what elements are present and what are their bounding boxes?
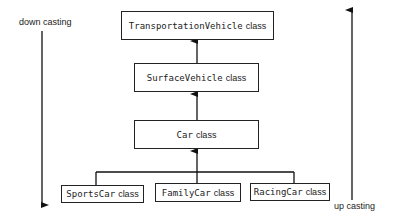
node-racing-car: RacingCarclass (250, 183, 330, 201)
node-suffix: class (196, 130, 217, 140)
node-suffix: class (246, 21, 267, 31)
node-suffix: class (118, 189, 139, 199)
node-name: TransportationVehicle (129, 21, 243, 31)
up-casting-label: up casting (334, 201, 375, 211)
node-family-car: FamilyCarclass (155, 183, 241, 202)
node-suffix: class (306, 187, 327, 197)
node-suffix: class (214, 188, 235, 198)
node-surface-vehicle: SurfaceVehicleclass (134, 63, 259, 92)
class-hierarchy-diagram: down casting up casting TransportationVe… (0, 0, 397, 221)
node-name: RacingCar (254, 187, 303, 197)
node-name: Car (177, 130, 193, 140)
node-transportation-vehicle: TransportationVehicleclass (121, 11, 274, 40)
node-name: FamilyCar (162, 188, 211, 198)
node-sports-car: SportsCarclass (61, 185, 144, 203)
node-suffix: class (226, 73, 247, 83)
down-casting-label: down casting (19, 17, 72, 27)
node-name: SurfaceVehicle (147, 73, 223, 83)
node-name: SportsCar (66, 189, 115, 199)
node-car: Carclass (134, 120, 259, 149)
